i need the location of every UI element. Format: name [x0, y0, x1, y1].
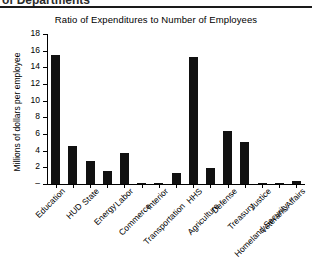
- bar: [223, 131, 232, 184]
- x-axis-labels: EducationHUDStateEnergyLaborCommerceInte…: [47, 184, 312, 261]
- y-tick-label: 16: [31, 45, 40, 56]
- y-tick-label: 6: [35, 128, 40, 139]
- bar: [189, 57, 198, 185]
- y-tick-label: 18: [31, 28, 40, 39]
- x-tick-label: Education: [33, 186, 67, 220]
- bar-series: [47, 34, 305, 184]
- chart-title: Ratio of Expenditures to Number of Emplo…: [0, 14, 312, 25]
- bar: [206, 168, 215, 184]
- y-tick-label: 8: [35, 111, 40, 122]
- y-tick-label: 12: [31, 78, 40, 89]
- x-tick-label: Energy: [92, 201, 118, 227]
- bar: [86, 161, 95, 184]
- y-axis-title: Millions of dollars per employee: [12, 37, 22, 187]
- x-tick-label: HHS: [184, 186, 204, 206]
- plot-area: –24681012141618: [47, 34, 305, 184]
- y-tick-label: 4: [35, 145, 40, 156]
- y-tick-label: 14: [31, 61, 40, 72]
- bar: [68, 146, 77, 184]
- bar: [120, 153, 129, 184]
- y-tick-label: 2: [35, 161, 40, 172]
- header-divider: [0, 6, 312, 8]
- bar: [240, 142, 249, 185]
- x-tick-label: Justice: [247, 186, 273, 212]
- bar-chart-figure: Ratio of Expenditures to Number of Emplo…: [0, 9, 312, 253]
- bar: [51, 55, 60, 184]
- y-tick-label: 10: [31, 95, 40, 106]
- bar: [103, 171, 112, 184]
- x-tick-label: State: [80, 186, 101, 207]
- x-tick-label: HUD: [64, 201, 84, 221]
- x-tick-label: Labor: [113, 186, 135, 208]
- bar: [172, 173, 181, 184]
- x-tick-label: Interior: [144, 186, 170, 212]
- y-tick-label: –: [35, 178, 40, 189]
